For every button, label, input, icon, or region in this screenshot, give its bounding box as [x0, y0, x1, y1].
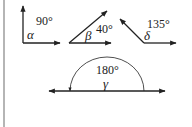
- gamma-measure-label: 180°: [96, 63, 119, 77]
- angle-delta: 135° δ: [120, 17, 176, 43]
- delta-symbol: δ: [144, 28, 151, 43]
- angle-alpha: 90° α: [23, 6, 60, 43]
- angle-gamma: 180° γ: [49, 57, 165, 91]
- beta-measure-label: 40°: [96, 22, 113, 36]
- gamma-symbol: γ: [103, 76, 109, 91]
- angles-diagram: 90° α β 40° 135° δ 180° γ: [0, 0, 192, 127]
- alpha-measure-label: 90°: [36, 14, 53, 28]
- delta-slanted-ray: [120, 19, 144, 43]
- delta-measure-label: 135°: [147, 17, 170, 31]
- angle-beta: β 40°: [69, 11, 113, 43]
- alpha-symbol: α: [27, 27, 35, 42]
- beta-symbol: β: [84, 28, 92, 43]
